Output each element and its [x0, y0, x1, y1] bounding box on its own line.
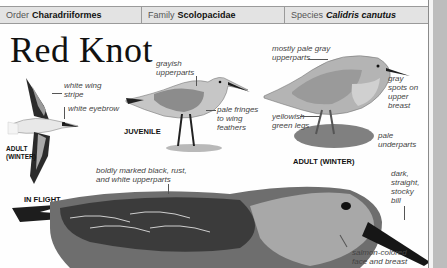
family-value: Scolopacidae: [178, 10, 236, 20]
taxonomy-order: Order Charadriiformes: [0, 7, 142, 23]
order-key: Order: [6, 10, 29, 20]
label-white-wing-stripe: white wing stripe: [64, 81, 101, 99]
caption-adult-winter-flight: ADULT (WINTER): [6, 145, 36, 161]
leader-line: [308, 59, 328, 60]
label-white-eyebrow: white eyebrow: [68, 104, 119, 113]
species-value: Calidris canutus: [326, 10, 396, 20]
family-key: Family: [148, 10, 175, 20]
page-gutter: [433, 0, 447, 268]
leader-line: [404, 206, 405, 220]
field-guide-page: Order Charadriiformes Family Scolopacida…: [0, 0, 428, 268]
caption-juvenile: JUVENILE: [124, 127, 161, 136]
leader-line: [64, 107, 65, 119]
leader-line: [168, 184, 169, 194]
label-yellowish-green-legs: yellowish green legs: [272, 112, 309, 130]
label-dark-stocky-bill: dark, straight, stocky bill: [391, 169, 419, 205]
leader-line: [300, 116, 320, 117]
caption-adult-winter: ADULT (WINTER): [293, 157, 355, 166]
order-value: Charadriiformes: [32, 10, 102, 20]
page-title: Red Knot: [10, 30, 153, 70]
taxonomy-bar: Order Charadriiformes Family Scolopacida…: [0, 6, 428, 24]
label-grayish-upperparts: grayish upperparts: [156, 59, 194, 77]
label-pale-fringes: pale fringes to wing feathers: [217, 105, 258, 132]
label-salmon-colored-face: salmon-colored face and breast: [352, 248, 407, 266]
label-gray-spots-upper-breast: gray spots on upper breast: [388, 74, 418, 110]
taxonomy-family: Family Scolopacidae: [142, 7, 285, 23]
label-pale-underparts: pale underparts: [378, 131, 416, 149]
label-boldly-marked-upperparts: boldly marked black, rust, and white upp…: [96, 166, 187, 184]
taxonomy-species: Species Calidris canutus: [285, 7, 428, 23]
leader-line: [206, 110, 216, 111]
leader-line: [196, 76, 197, 86]
leader-line: [52, 93, 62, 94]
species-key: Species: [291, 10, 323, 20]
